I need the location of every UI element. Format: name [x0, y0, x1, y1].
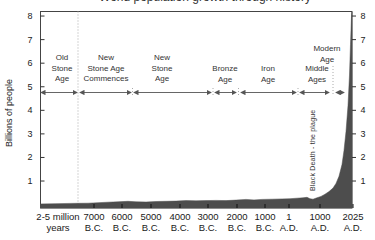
y-tick-label-right: 4: [360, 105, 365, 115]
x-tick-label-line2: B.C.: [83, 222, 104, 233]
x-tick-label-line2: A.D.: [342, 222, 363, 233]
era-label-line: New: [152, 53, 173, 64]
x-tick-label-line1: 2025: [342, 211, 363, 222]
era-label-line: Ages: [305, 75, 329, 86]
population-growth-chart: World population growth through history …: [0, 0, 375, 240]
x-tick-label-line1: 1: [280, 211, 298, 222]
x-tick-label-line1: 2000: [226, 211, 247, 222]
y-tick-label-right: 1: [360, 176, 365, 186]
y-tick-label-left: 3: [27, 129, 32, 139]
population-curve-area: [41, 12, 353, 208]
era-label-iron-age: IronAge: [261, 64, 275, 85]
era-label-line: Stone: [52, 64, 73, 75]
x-tick-label-line2: B.C.: [140, 222, 161, 233]
x-tick-label-line1: 1000: [309, 211, 330, 222]
y-tick-label-right: 8: [360, 11, 365, 21]
era-label-line: Middle: [305, 64, 329, 75]
era-label-old-stone-age: OldStoneAge: [52, 53, 73, 85]
x-tick-label-line2: B.C.: [197, 222, 218, 233]
x-tick-label-line2: B.C.: [169, 222, 190, 233]
x-tick-label-line2: B.C.: [254, 222, 275, 233]
y-tick-label-left: 4: [27, 105, 32, 115]
x-tick-label-line1: 2-5 million: [36, 211, 79, 222]
x-tick-label: 2025A.D.: [342, 211, 363, 233]
x-tick-label: 6000B.C.: [111, 211, 132, 233]
x-tick-label: 1000A.D.: [309, 211, 330, 233]
y-tick-label-right: 5: [360, 82, 365, 92]
era-label-line: Stone: [152, 64, 173, 75]
x-tick-label-line2: A.D.: [280, 222, 298, 233]
era-label-modern-age: ModernAge: [313, 44, 340, 65]
era-label-new-stone-age: NewStoneAge: [152, 53, 173, 85]
era-label-line: Age: [261, 75, 275, 86]
x-tick-label-line1: 6000: [111, 211, 132, 222]
y-tick-label-left: 8: [27, 11, 32, 21]
y-tick-label-right: 2: [360, 152, 365, 162]
black-death-annotation: Black Death - the plague: [309, 110, 316, 191]
y-tick-label-left: 6: [27, 58, 32, 68]
x-tick-label-line1: 7000: [83, 211, 104, 222]
era-label-line: Commences: [84, 74, 129, 85]
y-tick-label-right: 6: [360, 58, 365, 68]
x-tick-label: 4000B.C.: [169, 211, 190, 233]
era-label-line: Iron: [261, 64, 275, 75]
x-tick-label: 3000B.C.: [197, 211, 218, 233]
y-tick-label-right: 3: [360, 129, 365, 139]
era-label-middle-ages: MiddleAges: [305, 64, 329, 85]
y-tick-label-left: 1: [27, 176, 32, 186]
x-tick-label: 5000B.C.: [140, 211, 161, 233]
y-tick-label-left: 7: [27, 35, 32, 45]
x-tick-label-line2: B.C.: [226, 222, 247, 233]
era-label-new-stone-age-commences: NewStone AgeCommences: [84, 53, 129, 85]
era-label-line: Age: [212, 75, 237, 86]
x-tick-label: 2-5 millionyears: [36, 211, 79, 233]
era-label-line: Age: [152, 74, 173, 85]
x-tick-label-line1: 5000: [140, 211, 161, 222]
x-tick-label: 1000B.C.: [254, 211, 275, 233]
x-tick-label: 7000B.C.: [83, 211, 104, 233]
era-label-line: Age: [52, 74, 73, 85]
x-tick-label-line1: 3000: [197, 211, 218, 222]
x-tick-label-line1: 4000: [169, 211, 190, 222]
y-tick-label-left: 5: [27, 82, 32, 92]
x-tick-label-line1: 1000: [254, 211, 275, 222]
x-tick-label: 1A.D.: [280, 211, 298, 233]
x-tick-label: 2000B.C.: [226, 211, 247, 233]
era-label-line: Old: [52, 53, 73, 64]
chart-plot-canvas: [0, 0, 375, 240]
era-label-bronze-age: BronzeAge: [212, 64, 237, 85]
era-label-line: Age: [313, 55, 340, 66]
y-tick-label-left: 2: [27, 152, 32, 162]
x-tick-label-line2: years: [36, 222, 79, 233]
era-label-line: Bronze: [212, 64, 237, 75]
y-tick-label-right: 7: [360, 35, 365, 45]
era-label-line: New: [84, 53, 129, 64]
plot-frame: [41, 12, 353, 209]
era-label-line: Stone Age: [84, 64, 129, 75]
era-label-line: Modern: [313, 44, 340, 55]
y-axis-title: Billions of people: [4, 67, 14, 159]
x-tick-label-line2: B.C.: [111, 222, 132, 233]
x-tick-label-line2: A.D.: [309, 222, 330, 233]
